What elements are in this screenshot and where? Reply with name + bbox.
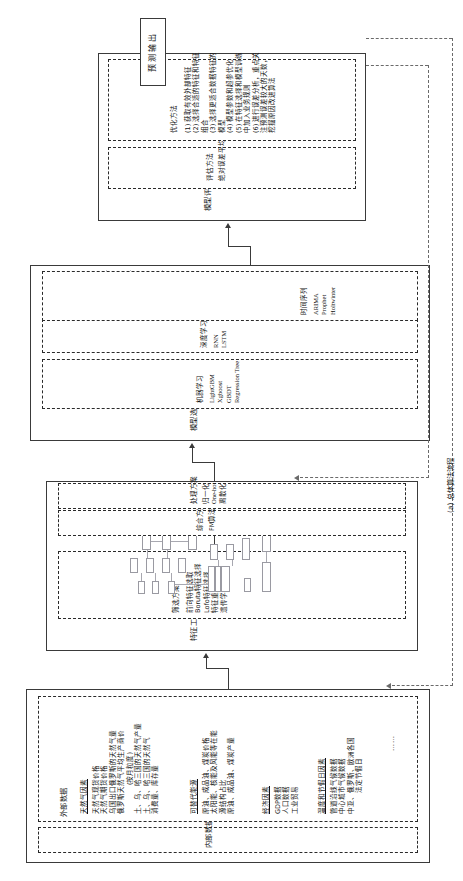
feature-processing-items: 归一化 One-hot 离散化	[202, 483, 227, 504]
data-item: 天然气期货价格	[100, 723, 108, 814]
data-item: 消费量、库存量	[151, 723, 159, 814]
data-item: 中心城市气候数据	[338, 737, 346, 814]
feedback-line-vertical-main	[366, 65, 428, 66]
rotated-figure-wrapper: 内部数据 外部数据 天然气因素 天然气现货价格 天然气期货价格 乌国出口俄罗斯的…	[0, 0, 463, 881]
feature-synthesis-items: FM算法	[208, 508, 216, 531]
optimization-item: (4) 模型参数和超参优化	[226, 52, 234, 133]
connector-model-to-evaluation-2	[228, 227, 229, 247]
data-item: 土、乌、哈三国的天然气产量	[134, 723, 142, 814]
model-dl-box	[42, 319, 418, 353]
feedback-arrow-to-feature-icon	[294, 475, 299, 481]
model-timeseries-box	[42, 271, 418, 321]
optimization-item: (6) 进行误差分析，重点关	[252, 52, 260, 133]
model-item: Holtwinter	[329, 287, 337, 315]
feature-processing-header: 处理方案	[190, 476, 198, 504]
model-timeseries-items: ARIMA Prophet Holtwinter	[312, 287, 337, 315]
data-group-items-economy: GDP数据 人口数据 工业贸易	[274, 786, 299, 814]
connector-feature-to-model-arrow-icon	[189, 443, 195, 448]
connector-model-to-evaluation-riser	[228, 246, 251, 247]
data-item: 太阳能、核能及风能等在能	[210, 730, 218, 814]
figure-caption: (a) 总体算法流程	[444, 458, 455, 513]
optimization-item: (5) 在特征选择和模型训练	[235, 52, 243, 133]
feature-synthesis-box	[58, 510, 406, 536]
model-item: Prophet	[320, 287, 328, 315]
model-item: GBDT	[225, 361, 233, 403]
internal-data-box	[38, 827, 418, 853]
model-item: LSTM	[220, 331, 228, 348]
data-group-items-gas: 天然气现货价格 天然气期货价格 乌国出口俄罗斯的天然气量 俄罗斯天然气平均生产商…	[92, 723, 160, 814]
evaluation-method-header: 评估方法	[206, 153, 214, 181]
data-group-header-gas: 天然气因素	[80, 779, 88, 814]
prediction-output-label: 预测输出	[148, 18, 158, 86]
optimization-item: (2) 选择合适的特征和特征	[192, 52, 200, 133]
evaluation-method-box	[108, 147, 356, 189]
data-item: 工业贸易	[291, 786, 299, 814]
connector-model-to-evaluation	[250, 247, 251, 265]
connector-data-to-feature-arrow-icon	[203, 653, 209, 658]
feedback-line-horizontal-outer	[452, 38, 453, 686]
feature-item: 归一化	[202, 483, 210, 504]
connector-data-to-feature-riser	[206, 668, 229, 669]
algorithm-flowchart-canvas: 内部数据 外部数据 天然气因素 天然气现货价格 天然气期货价格 乌国出口俄罗斯的…	[0, 0, 463, 881]
feedback-line-vertical-to-data	[392, 685, 453, 686]
external-data-title: 外部数据	[60, 788, 68, 817]
connector-model-to-evaluation-arrow-icon	[225, 223, 231, 228]
model-ml-header: 机器学习	[196, 375, 204, 403]
model-item: Xgboost	[216, 361, 224, 403]
model-item: LightGBM	[208, 361, 216, 403]
data-item: 原油、成品油、煤炭产量	[227, 730, 235, 814]
connector-feature-to-model-2	[192, 447, 193, 463]
data-item: 俄罗斯天然气平均生产商价	[117, 723, 125, 814]
connector-data-to-feature-2	[206, 657, 207, 669]
feature-item: 离散化	[219, 483, 227, 504]
feedback-line-vertical-outer	[366, 38, 452, 39]
optimization-item: (3) 选择更适合数据特征的	[209, 52, 217, 133]
feature-processing-box	[58, 483, 406, 509]
data-item: 人口数据	[282, 786, 290, 814]
data-group-items-altenergy: 原油、成品油、煤炭价格 太阳能、核能及风能等在能 源结构占比 原油、成品油、煤炭…	[202, 730, 236, 814]
data-item: 法定节假日	[355, 737, 363, 814]
feedback-line-vertical-to-feature	[300, 477, 429, 478]
feature-item: One-hot	[210, 483, 218, 504]
optimization-method-header: 优化方法	[170, 105, 178, 133]
data-item: 土、乌、哈三国的天然气	[143, 723, 151, 814]
data-group-header-altenergy: 可替代能源	[190, 779, 198, 814]
model-item: RNN	[212, 331, 220, 348]
optimization-item: 模型	[218, 52, 226, 133]
feedback-line-horizontal-main	[428, 65, 429, 478]
optimization-item: 中加入业务规则	[243, 52, 251, 133]
model-item: ARIMA	[312, 287, 320, 315]
data-group-header-temp-holiday: 温度和节假日因素	[318, 758, 326, 814]
model-timeseries-header: 时间序列	[300, 287, 308, 315]
model-dl-header: 深度学习	[200, 320, 208, 348]
connector-data-to-feature	[228, 669, 229, 689]
data-group-items-temp-holiday: 管道沿线气候数据 中心城市气候数据 中亚、俄罗斯、欧洲各国 法定节假日	[330, 737, 364, 814]
connector-feature-to-model	[214, 463, 215, 481]
feature-item: FM算法	[208, 508, 216, 531]
data-item: (按月粒度)	[126, 723, 134, 814]
model-dl-items: RNN LSTM	[212, 331, 229, 348]
model-item: Regression Tree	[233, 361, 241, 403]
feedback-arrow-to-data-icon	[386, 683, 391, 689]
optimization-item: 挖掘原因改进算法	[268, 52, 276, 133]
optimization-method-items: (1) 获取有效外部特征 (2) 选择合适的特征和特征 组合 (3) 选择更适合…	[184, 52, 277, 133]
connector-feature-to-model-riser	[192, 462, 215, 463]
model-ml-items: LightGBM Xgboost GBDT Regression Tree	[208, 361, 242, 403]
data-ellipsis: ……	[388, 735, 396, 751]
data-group-header-economy: 经济因素	[262, 786, 270, 814]
